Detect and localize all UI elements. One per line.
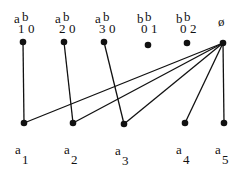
label-letter: a — [215, 143, 221, 156]
label-glyph: 0 — [180, 22, 187, 35]
node-a3 — [121, 121, 128, 128]
edge-empty-a4 — [185, 43, 223, 123]
node-b0b1 — [145, 42, 152, 49]
node-b0b2 — [184, 40, 191, 47]
label-glyph: 0 — [141, 22, 148, 35]
node-a5 — [221, 120, 228, 127]
label-glyph: 0 — [69, 22, 76, 35]
label-glyph: 3 — [99, 22, 106, 35]
label-glyph: 1 — [18, 22, 25, 35]
label-index: 5 — [222, 153, 229, 166]
label-glyph: 0 — [109, 22, 116, 35]
edge-a3b0-a3 — [104, 42, 124, 124]
edge-a1b0-a1 — [23, 42, 24, 123]
label-glyph: ø — [218, 15, 225, 28]
label-letter: a — [64, 143, 70, 156]
edge-empty-a5 — [223, 43, 224, 123]
label-glyph: 0 — [28, 22, 35, 35]
label-index: 1 — [22, 153, 29, 166]
node-empty — [220, 40, 227, 47]
label-letter: a — [115, 144, 121, 157]
edge-empty-a2 — [73, 43, 223, 123]
label-letter: a — [15, 143, 21, 156]
node-a2b0 — [61, 39, 68, 46]
edge-a2b0-a2 — [64, 42, 73, 123]
label-index: 4 — [183, 153, 190, 166]
label-index: 2 — [71, 153, 78, 166]
node-a1 — [21, 120, 28, 127]
edge-empty-a3 — [124, 43, 223, 124]
edges — [23, 42, 224, 124]
label-glyph: 2 — [190, 22, 197, 35]
edge-empty-a1 — [24, 43, 223, 123]
label-glyph: 1 — [151, 22, 158, 35]
label-glyph: 2 — [59, 22, 66, 35]
node-a1b0 — [20, 39, 27, 46]
node-a4 — [182, 120, 189, 127]
node-a2 — [70, 120, 77, 127]
node-a3b0 — [101, 39, 108, 46]
label-letter: a — [176, 143, 182, 156]
label-index: 3 — [122, 154, 129, 167]
